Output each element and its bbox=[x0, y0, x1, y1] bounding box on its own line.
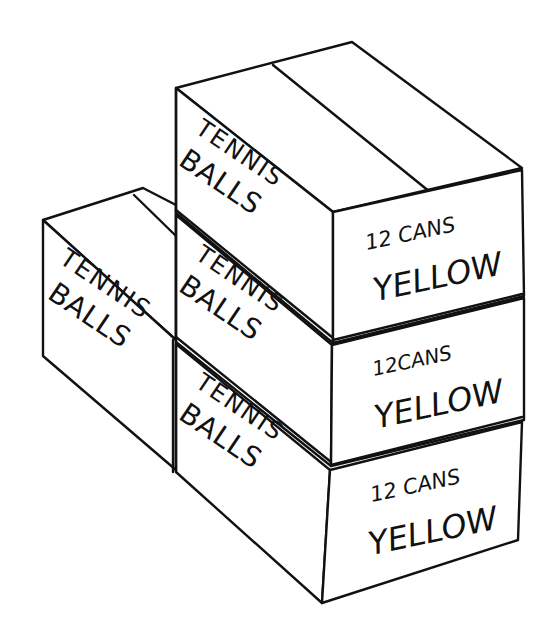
left-box: TENNIS BALLS bbox=[33, 188, 176, 470]
tennis-ball-boxes-drawing: TENNIS BALLS TENNIS BALLS 12 CANS YELLOW… bbox=[0, 0, 552, 640]
